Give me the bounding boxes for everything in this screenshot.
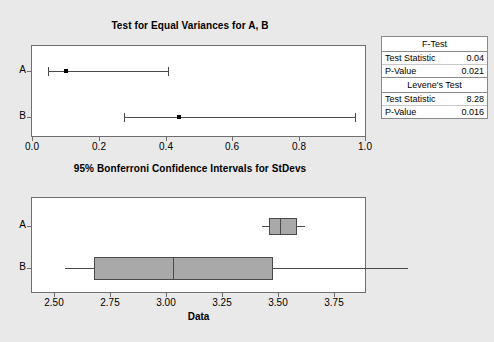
ci-cap-a-upper [168, 67, 169, 76]
box-xlabel-5: 3.75 [314, 297, 354, 308]
ci-line-b [124, 117, 355, 118]
ftest-header: F-Test [382, 37, 487, 52]
ci-xlabel-4: 0.8 [279, 141, 319, 152]
page-title: Test for Equal Variances for A, B [0, 20, 380, 31]
box-xlabel-2: 3.00 [146, 297, 186, 308]
ci-xlabel-0: 0.0 [12, 141, 52, 152]
ci-point-b [177, 115, 181, 119]
boxplot-b-median [173, 257, 174, 280]
ftest-p-value-value: 0.021 [461, 66, 484, 76]
ftest-test-statistic-label: Test Statistic [385, 53, 436, 63]
levene-test-statistic-value: 8.28 [466, 94, 484, 104]
ci-ycat-b: B [10, 110, 26, 121]
boxplot-a-median [280, 218, 281, 235]
box-ycat-b: B [10, 261, 26, 272]
ci-cap-b-lower [124, 113, 125, 122]
ftest-test-statistic-row: Test Statistic 0.04 [382, 52, 487, 65]
boxplot-a-box [269, 218, 297, 235]
box-ytick-a [27, 226, 31, 227]
box-xlabel-4: 3.50 [258, 297, 298, 308]
ci-ytick-b [27, 117, 31, 118]
ci-xlabel-3: 0.6 [212, 141, 252, 152]
box-xlabel-1: 2.75 [90, 297, 130, 308]
levene-p-value-row: P-Value 0.016 [382, 106, 487, 118]
stats-table: F-Test Test Statistic 0.04 P-Value 0.021… [381, 36, 488, 119]
ci-cap-a-lower [48, 67, 49, 76]
boxplot-b-box [94, 257, 273, 280]
box-xlabel-0: 2.50 [34, 297, 74, 308]
ci-cap-b-upper [355, 113, 356, 122]
subplot-title: 95% Bonferroni Confidence Intervals for … [0, 163, 380, 174]
ci-ytick-a [27, 71, 31, 72]
boxplot-b-whisker-low [65, 268, 95, 269]
ci-xlabel-5: 1.0 [345, 141, 385, 152]
ci-ycat-a: A [10, 64, 26, 75]
chart-canvas: Test for Equal Variances for A, B A B 0.… [0, 0, 494, 342]
x-axis-title: Data [31, 311, 366, 322]
levene-test-statistic-row: Test Statistic 8.28 [382, 93, 487, 106]
ci-point-a [64, 69, 68, 73]
ftest-test-statistic-value: 0.04 [466, 53, 484, 63]
levene-p-value-value: 0.016 [461, 107, 484, 117]
ci-xlabel-2: 0.4 [146, 141, 186, 152]
ftest-p-value-label: P-Value [385, 66, 416, 76]
ci-plot-area [31, 45, 366, 137]
boxplot-b-whisker-high [272, 268, 408, 269]
levene-header: Levene's Test [382, 78, 487, 93]
boxplot-a-whisker-high [296, 226, 305, 227]
levene-p-value-label: P-Value [385, 107, 416, 117]
ci-xlabel-1: 0.2 [79, 141, 119, 152]
box-xlabel-3: 3.25 [202, 297, 242, 308]
levene-test-statistic-label: Test Statistic [385, 94, 436, 104]
box-ycat-a: A [10, 219, 26, 230]
box-ytick-b [27, 268, 31, 269]
ftest-p-value-row: P-Value 0.021 [382, 65, 487, 78]
